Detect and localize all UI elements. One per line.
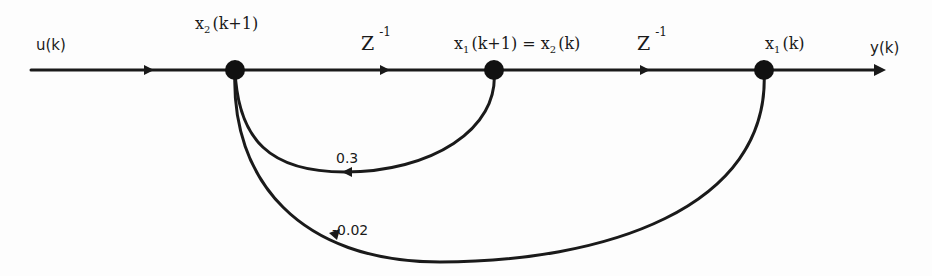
gain-label-z-inverse-2: Z-1 [637, 25, 667, 54]
arrow-icon [342, 167, 352, 177]
output-arrow-icon [874, 64, 886, 76]
gain-label-inner: 0.3 [336, 150, 358, 166]
node-label-x1-k-plus-1: x1(k+1) = x2(k) [454, 34, 580, 55]
input-label: u(k) [36, 36, 66, 54]
feedback-branch-neg-0-02: -0.02 [235, 70, 765, 262]
feedback-curve-outer [235, 70, 765, 262]
feedback-branch-0-3: 0.3 [235, 70, 494, 177]
node-x1-k-plus-1 [484, 60, 504, 80]
output-label: y(k) [870, 39, 899, 57]
signal-flow-graph: 0.3 -0.02 u(k) x2(k+1) Z-1 x1(k+1) = x2(… [0, 0, 932, 276]
gain-label-z-inverse-1: Z-1 [361, 25, 391, 54]
node-x1-k [754, 60, 774, 80]
node-label-x1-k: x1(k) [765, 34, 805, 55]
feedback-curve-inner [235, 70, 494, 172]
arrow-icon [640, 65, 650, 75]
node-x2-k-plus-1 [225, 60, 245, 80]
arrow-icon [380, 65, 390, 75]
labels: u(k) x2(k+1) Z-1 x1(k+1) = x2(k) Z-1 x1(… [36, 14, 899, 57]
arrow-icon [144, 65, 154, 75]
gain-label-outer: -0.02 [332, 222, 368, 238]
node-label-x2-k-plus-1: x2(k+1) [195, 14, 258, 35]
